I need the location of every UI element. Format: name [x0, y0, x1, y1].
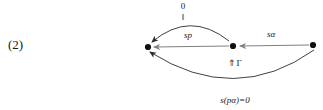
arrow-s-alpha-path: [240, 45, 309, 46]
label-double-bar: ‖: [174, 13, 192, 22]
label-sp: sp: [176, 31, 200, 40]
node-left: [145, 44, 151, 50]
label-two-cell-gamma: ⇑Γ: [221, 59, 249, 68]
node-middle: [230, 43, 236, 49]
label-s-p-alpha-zero: s(pα)=0: [200, 96, 270, 105]
arrow-sp-path: [154, 46, 229, 47]
commutative-diagram: [0, 0, 323, 110]
label-zero: 0: [174, 2, 192, 11]
figure-canvas: (2) 0 ‖ sp sα ⇑Γ s(pα)=0: [0, 0, 323, 110]
label-s-alpha: sα: [259, 30, 283, 39]
node-right: [310, 42, 316, 48]
